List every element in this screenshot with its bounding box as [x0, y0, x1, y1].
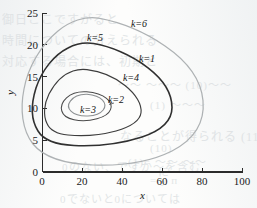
contour-label-k5: k=5 — [87, 33, 103, 43]
x-tick-label-80: 80 — [197, 176, 208, 187]
x-tick-label-0: 0 — [39, 176, 45, 187]
x-tick-label-100: 100 — [234, 176, 251, 187]
y-tick-label-15: 15 — [24, 72, 38, 83]
x-axis-ticks — [43, 168, 243, 173]
y-tick-label-5: 5 — [24, 135, 38, 146]
x-tick-label-60: 60 — [157, 176, 168, 187]
contour-label-k6: k=6 — [131, 19, 147, 29]
y-axis-ticks — [43, 13, 48, 172]
y-axis-title: y — [5, 87, 16, 99]
y-tick-label-10: 10 — [24, 103, 38, 114]
y-tick-label-25: 25 — [24, 8, 38, 19]
contour-label-k1: k=1 — [139, 54, 155, 64]
x-tick-label-20: 20 — [77, 176, 88, 187]
x-tick-label-40: 40 — [117, 176, 128, 187]
y-tick-label-0: 0 — [24, 167, 38, 178]
contour-label-k4: k=4 — [123, 73, 139, 83]
x-axis-title: x — [140, 190, 145, 201]
contour-label-k3: k=3 — [80, 105, 96, 115]
contour-figure: 御日ここですがると 時間についての分えられる 対応する場合には、初期と 〜〜 〜… — [0, 0, 257, 208]
y-tick-label-20: 20 — [24, 40, 38, 51]
contour-label-k2: k=2 — [108, 95, 124, 105]
